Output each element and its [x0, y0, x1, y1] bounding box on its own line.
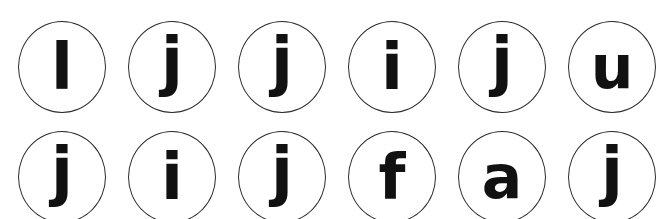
letter-glyph: j	[18, 131, 106, 219]
letter-glyph: j	[568, 131, 656, 219]
letter-glyph: l	[18, 21, 106, 113]
letter-glyph: j	[128, 21, 216, 121]
letter-glyph: u	[568, 21, 656, 113]
letter-glyph: i	[348, 21, 436, 113]
letter-glyph: j	[458, 21, 546, 121]
letter-circle-j-r0c4[interactable]: j	[458, 21, 546, 113]
letter-circle-j-r1c5[interactable]: j	[568, 131, 656, 219]
letter-circle-l-r0c0[interactable]: l	[18, 21, 106, 113]
letter-glyph: a	[458, 131, 546, 219]
letter-circle-i-r0c3[interactable]: i	[348, 21, 436, 113]
letter-circle-i-r1c1[interactable]: i	[128, 131, 216, 219]
letter-circle-j-r1c2[interactable]: j	[238, 131, 326, 219]
letter-circle-j-r0c2[interactable]: j	[238, 21, 326, 113]
letter-circle-a-r1c4[interactable]: a	[458, 131, 546, 219]
letter-glyph: j	[238, 21, 326, 121]
letter-circle-f-r1c3[interactable]: f	[348, 131, 436, 219]
letter-glyph: i	[128, 131, 216, 219]
letter-circle-grid: ljjijujijfaj	[0, 0, 663, 219]
letter-circle-u-r0c5[interactable]: u	[568, 21, 656, 113]
letter-glyph: f	[348, 131, 436, 219]
letter-glyph: j	[238, 131, 326, 219]
letter-circle-j-r0c1[interactable]: j	[128, 21, 216, 113]
letter-circle-j-r1c0[interactable]: j	[18, 131, 106, 219]
